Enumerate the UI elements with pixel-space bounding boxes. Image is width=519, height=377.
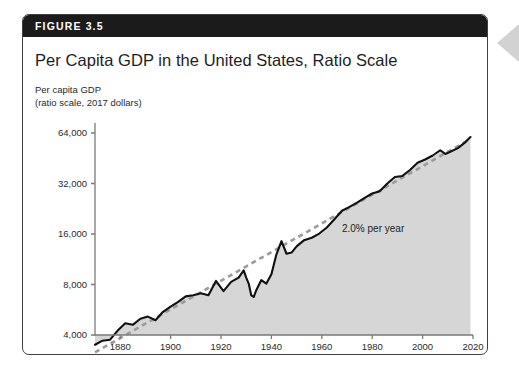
x-tick-label: 1920: [210, 341, 231, 352]
x-tick-label: 1880: [110, 341, 131, 352]
x-tick-label: 1940: [261, 341, 282, 352]
y-tick-label: 64,000: [58, 127, 87, 138]
x-tick-label: 1960: [311, 341, 332, 352]
growth-rate-annotation: 2.0% per year: [342, 223, 405, 234]
chart-annotations: 2.0% per year: [342, 223, 405, 234]
gdp-chart: 4,0008,00016,00032,00064,000 18801900192…: [23, 85, 488, 354]
x-tick-label: 2020: [462, 341, 483, 352]
x-tick-label: 1980: [362, 341, 383, 352]
page-edge-chevron-icon: [497, 24, 519, 62]
figure-card: FIGURE 3.5 Per Capita GDP in the United …: [22, 14, 488, 355]
y-axis-ticks: 4,0008,00016,00032,00064,000: [58, 127, 95, 340]
x-axis-ticks: 18801900192019401960198020002020: [110, 335, 484, 352]
x-tick-label: 2000: [412, 341, 433, 352]
y-tick-label: 8,000: [63, 279, 87, 290]
y-tick-label: 32,000: [58, 178, 87, 189]
y-tick-label: 16,000: [58, 228, 87, 239]
figure-header-band: FIGURE 3.5: [23, 15, 487, 37]
x-tick-label: 1900: [160, 341, 181, 352]
figure-number-label: FIGURE 3.5: [35, 20, 104, 32]
y-tick-label: 4,000: [63, 329, 87, 340]
figure-title: Per Capita GDP in the United States, Rat…: [35, 51, 487, 70]
data-area-shading: [95, 137, 470, 345]
